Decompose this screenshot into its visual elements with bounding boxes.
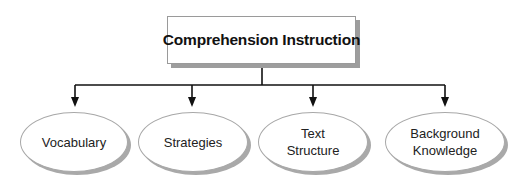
- diagram-title: Comprehension Instruction: [163, 31, 360, 49]
- node-strategies: Strategies: [138, 112, 248, 172]
- node-label-line: Knowledge: [410, 142, 479, 159]
- node-label-line: Vocabulary: [42, 134, 106, 151]
- node-label: Strategies: [164, 134, 223, 151]
- node-background-knowledge: Background Knowledge: [385, 112, 505, 172]
- node-label: Text Structure: [287, 125, 340, 159]
- node-label: Vocabulary: [42, 134, 106, 151]
- node-text-structure: Text Structure: [258, 112, 368, 172]
- title-box: Comprehension Instruction: [167, 16, 356, 64]
- diagram-canvas: Comprehension Instruction Vocabulary Str…: [0, 0, 524, 181]
- node-label: Background Knowledge: [410, 125, 479, 159]
- node-label-line: Text: [287, 125, 340, 142]
- node-label-line: Strategies: [164, 134, 223, 151]
- node-vocabulary: Vocabulary: [20, 112, 128, 172]
- node-label-line: Background: [410, 125, 479, 142]
- node-label-line: Structure: [287, 142, 340, 159]
